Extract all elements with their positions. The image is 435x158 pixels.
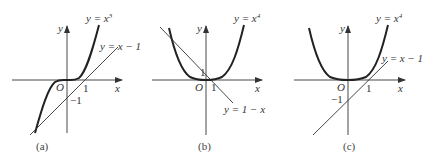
- line-label: y = x − 1: [99, 40, 141, 52]
- tick-y-1: 1: [200, 66, 206, 78]
- curve-label: y = x4: [233, 12, 261, 24]
- curve-quartic: [169, 25, 244, 80]
- caption-a: (a): [36, 140, 49, 153]
- panel-b: O 1 1 x y y = x4 y = 1 − x (b): [152, 12, 265, 153]
- caption-c: (c): [343, 140, 356, 153]
- line-x-minus-1: [30, 47, 118, 135]
- tick-y-neg1: −1: [70, 94, 82, 106]
- caption-b: (b): [198, 140, 211, 153]
- tick-x-1: 1: [83, 82, 89, 94]
- tick-x-1: 1: [211, 81, 217, 93]
- y-axis-label: y: [339, 22, 345, 34]
- origin-label: O: [56, 81, 64, 93]
- y-axis-label: y: [57, 22, 63, 34]
- line-label: y = x − 1: [381, 52, 423, 64]
- origin-label: O: [195, 81, 203, 93]
- panel-a: O 1 −1 x y y = x3 y = x − 1 (a): [12, 12, 141, 153]
- figure: O 1 −1 x y y = x3 y = x − 1 (a) O 1 1 x …: [0, 0, 435, 158]
- x-axis-label: x: [397, 82, 403, 94]
- curve-label: y = x4: [375, 12, 403, 24]
- x-axis-label: x: [114, 82, 120, 94]
- tick-x-1: 1: [366, 82, 372, 94]
- x-axis-label: x: [254, 82, 260, 94]
- line-label: y = 1 − x: [223, 103, 265, 115]
- curve-quartic: [309, 25, 388, 80]
- panel-c: O 1 −1 x y y = x4 y = x − 1 (c): [294, 12, 423, 153]
- curve-label: y = x3: [85, 12, 113, 24]
- tick-y-neg1: −1: [331, 93, 343, 105]
- origin-label: O: [337, 81, 345, 93]
- y-axis-label: y: [196, 22, 202, 34]
